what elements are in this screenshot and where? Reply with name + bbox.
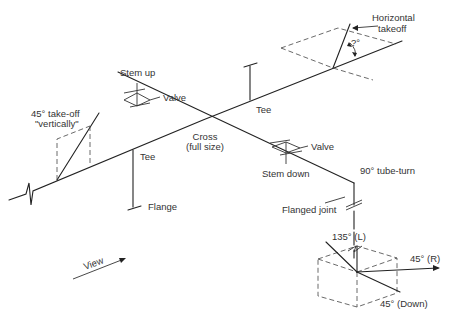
label-valve-lower: Valve (311, 141, 334, 152)
label-valve-upper: Valve (163, 92, 186, 103)
label-135-l: 135° (L) (332, 231, 366, 242)
label-cross-2: (full size) (186, 141, 224, 152)
label-flange: Flange (148, 201, 177, 212)
tee-upper (244, 63, 257, 100)
label-horizontal-takeoff-2: takeoff (378, 23, 407, 34)
label-tube-turn: 90° tube-turn (360, 165, 415, 176)
label-angle: ?° (351, 37, 360, 48)
flanged-joint-leader (325, 197, 345, 203)
label-45-down: 45° (Down) (380, 298, 428, 309)
label-flanged-joint: Flanged joint (282, 204, 337, 215)
label-tee-lower: Tee (140, 151, 155, 162)
piping-isometric-diagram: Horizontal takeoff ?° Stem up Valve 45° … (0, 0, 453, 326)
label-horizontal-takeoff-1: Horizontal (372, 12, 415, 23)
valve-stem-up (124, 83, 160, 107)
label-view: View (82, 255, 105, 272)
label-45-r: 45° (R) (410, 253, 440, 264)
label-45-takeoff-2: "vertically" (35, 118, 79, 129)
label-tee-upper: Tee (256, 104, 271, 115)
label-stem-down: Stem down (262, 168, 310, 179)
valve-stem-down (270, 140, 308, 164)
branch-pipe (118, 72, 354, 258)
label-stem-up: Stem up (120, 67, 155, 78)
